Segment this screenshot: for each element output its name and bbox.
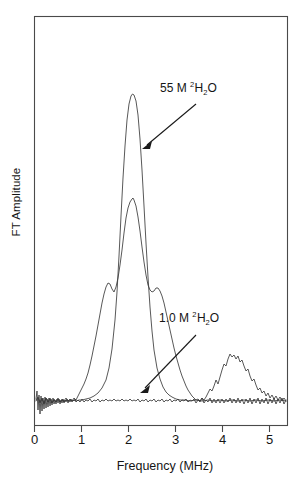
annotation-arrow-55m <box>142 104 196 149</box>
annotation-10m-element: H <box>197 311 206 325</box>
annotation-55m-prefix: 55 M <box>160 81 190 95</box>
annotation-10m-suffix: O <box>210 311 219 325</box>
trace-noise-baseline <box>36 391 286 414</box>
x-tick-label-1: 1 <box>69 432 95 447</box>
annotation-55m-suffix: O <box>207 81 216 95</box>
annotation-55m-element: H <box>195 81 204 95</box>
x-axis-label: Frequency (MHz) <box>93 459 214 473</box>
annotation-arrow-10m <box>140 335 196 393</box>
x-tick-label-0: 0 <box>22 432 48 447</box>
plot-frame <box>35 17 288 426</box>
annotation-label-10m: 1.0 M 2H2O <box>159 312 219 324</box>
plot-canvas <box>0 0 306 488</box>
annotation-10m-prefix: 1.0 M <box>159 311 192 325</box>
trace-55m <box>36 94 286 404</box>
x-axis-label-wrapper: Frequency (MHz) <box>0 459 306 473</box>
x-tick-label-5: 5 <box>257 432 283 447</box>
x-tick-label-3: 3 <box>163 432 189 447</box>
trace-10m <box>36 198 286 403</box>
x-tick-label-2: 2 <box>116 432 142 447</box>
x-tick-label-4: 4 <box>210 432 236 447</box>
annotation-label-55m: 55 M 2H2O <box>160 82 217 94</box>
figure-chart-ft-amplitude: FT Amplitude 0 1 2 <box>0 0 306 488</box>
